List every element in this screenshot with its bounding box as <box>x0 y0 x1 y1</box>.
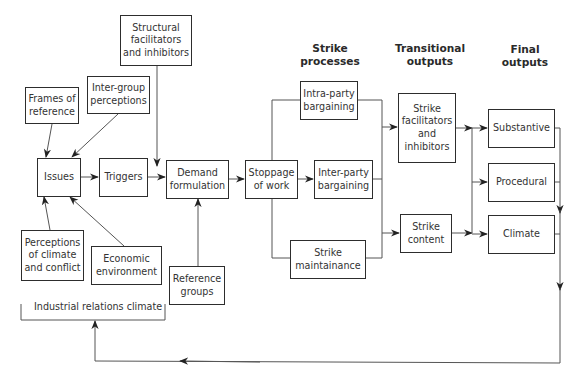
node-label: Economic environment <box>92 253 161 278</box>
node-label: Triggers <box>104 171 142 184</box>
node-intra-party-bargaining: Intra-party bargaining <box>300 81 358 120</box>
node-label: Structural facilitators and inhibitors <box>121 22 191 60</box>
node-label: Stoppage of work <box>246 167 297 192</box>
node-label: Intra-party bargaining <box>301 88 357 113</box>
node-strike-maintainance: Strike maintainance <box>290 240 366 279</box>
node-label: Issues <box>44 171 74 184</box>
node-reference-groups: Reference groups <box>169 266 225 305</box>
heading-final-outputs: Final outputs <box>490 43 560 69</box>
node-label: Strike maintainance <box>291 247 365 272</box>
node-demand-formulation: Demand formulation <box>166 160 229 199</box>
node-label: Inter-group perceptions <box>88 82 149 107</box>
node-inter-party-bargaining: Inter-party bargaining <box>314 160 373 199</box>
industrial-relations-climate-label: Industrial relations climate <box>34 301 162 312</box>
node-label: Substantive <box>493 122 550 135</box>
node-inter-group-perceptions: Inter-group perceptions <box>87 76 150 114</box>
node-strike-facilitators: Strike facilitators and inhibitors <box>398 93 456 163</box>
node-climate: Climate <box>488 215 555 254</box>
heading-transitional-outputs: Transitional outputs <box>385 42 475 68</box>
node-label: Strike content <box>401 221 451 246</box>
node-label: Procedural <box>496 176 547 189</box>
node-strike-content: Strike content <box>400 214 452 253</box>
node-procedural: Procedural <box>488 163 555 202</box>
node-frames-of-reference: Frames of reference <box>25 87 79 124</box>
node-label: Perceptions of climate and conflict <box>22 237 83 275</box>
node-label: Climate <box>503 228 540 241</box>
node-issues: Issues <box>37 158 81 197</box>
node-label: Strike facilitators and inhibitors <box>399 103 455 153</box>
node-substantive: Substantive <box>488 109 555 148</box>
node-label: Inter-party bargaining <box>315 167 372 192</box>
node-label: Frames of reference <box>26 93 78 118</box>
node-stoppage-of-work: Stoppage of work <box>245 160 298 199</box>
node-label: Demand formulation <box>167 167 228 192</box>
node-label: Reference groups <box>170 273 224 298</box>
node-structural-facilitators: Structural facilitators and inhibitors <box>120 15 192 66</box>
node-triggers: Triggers <box>99 158 148 197</box>
node-perceptions-of-climate: Perceptions of climate and conflict <box>21 230 84 281</box>
node-economic-environment: Economic environment <box>91 246 162 285</box>
heading-strike-processes: Strike processes <box>290 42 370 68</box>
